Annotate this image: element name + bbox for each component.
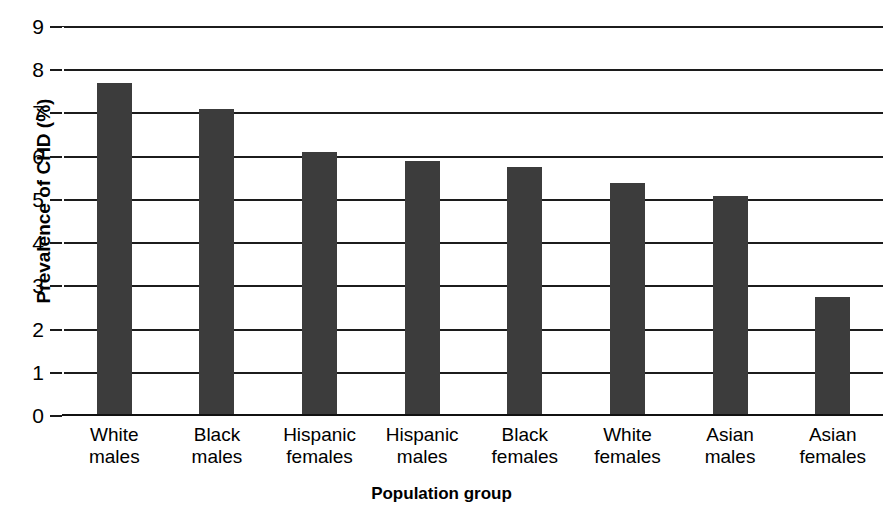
x-axis-title: Population group [0, 484, 883, 504]
y-axis-tick-mark [50, 415, 62, 417]
y-axis-tick-mark [50, 69, 62, 71]
gridline [62, 242, 883, 244]
y-axis-tick-label: 4 [18, 232, 44, 253]
bar-chart: Prevalence of CHD (%) 9876543210 White m… [0, 0, 883, 508]
y-axis-tick-mark [50, 285, 62, 287]
bar [815, 297, 850, 416]
gridline [62, 199, 883, 201]
y-axis-tick-label: 9 [18, 16, 44, 37]
y-axis-tick-mark [50, 26, 62, 28]
bar [199, 109, 234, 416]
x-axis-line [62, 414, 883, 416]
gridline [62, 329, 883, 331]
bar [507, 167, 542, 416]
gridline [62, 69, 883, 71]
x-axis-tick-label: Asian females [773, 424, 883, 469]
y-axis-tick-label: 2 [18, 319, 44, 340]
y-axis-tick-label: 5 [18, 189, 44, 210]
y-axis-tick-mark [50, 372, 62, 374]
bar [405, 161, 440, 416]
y-axis-tick-label: 7 [18, 102, 44, 123]
y-axis-tick-mark [50, 242, 62, 244]
y-axis-tick-label: 3 [18, 275, 44, 296]
gridline [62, 112, 883, 114]
y-axis-tick-label: 1 [18, 362, 44, 383]
y-axis-tick-label: 6 [18, 146, 44, 167]
y-axis-tick-mark [50, 156, 62, 158]
bar [302, 152, 337, 416]
gridline [62, 372, 883, 374]
bar [610, 183, 645, 416]
y-axis-line [62, 27, 64, 416]
bar [713, 196, 748, 416]
y-axis-tick-label: 0 [18, 405, 44, 426]
gridline [62, 285, 883, 287]
bar [97, 83, 132, 416]
y-axis-tick-mark [50, 329, 62, 331]
plot-area [62, 27, 883, 416]
y-axis-tick-mark [50, 199, 62, 201]
gridline [62, 26, 883, 28]
gridline [62, 156, 883, 158]
y-axis-tick-mark [50, 112, 62, 114]
y-axis-tick-label: 8 [18, 59, 44, 80]
